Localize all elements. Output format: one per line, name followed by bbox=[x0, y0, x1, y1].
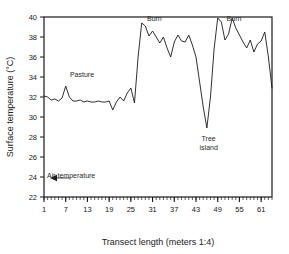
x-tick-label: 37 bbox=[170, 205, 178, 214]
annotation-air-temperature: Air temperature bbox=[47, 172, 95, 180]
x-tick-label: 7 bbox=[64, 205, 68, 214]
y-axis-ticks: 22242628303234363840 bbox=[29, 13, 44, 202]
x-tick-label: 55 bbox=[235, 205, 243, 214]
annotation-tree-island-line1: Tree bbox=[202, 135, 216, 142]
x-tick-label: 13 bbox=[83, 205, 91, 214]
y-tick-label: 28 bbox=[29, 133, 37, 142]
y-tick-label: 38 bbox=[29, 33, 37, 42]
chart-figure: 22242628303234363840 1713192531374349556… bbox=[0, 0, 289, 254]
x-tick-label: 1 bbox=[42, 205, 46, 214]
annotation-burn-right: Burn bbox=[227, 15, 242, 22]
annotation-burn-left: Burn bbox=[147, 15, 162, 22]
annotation-tree-island-line2: island bbox=[200, 144, 218, 151]
surface-temperature-line-chart: 22242628303234363840 1713192531374349556… bbox=[0, 0, 289, 254]
y-tick-label: 22 bbox=[29, 193, 37, 202]
y-tick-label: 26 bbox=[29, 153, 37, 162]
y-tick-label: 32 bbox=[29, 93, 37, 102]
y-axis-title: Surface temperature (°C) bbox=[5, 57, 15, 158]
y-tick-label: 40 bbox=[29, 13, 37, 22]
x-tick-label: 19 bbox=[105, 205, 113, 214]
x-tick-label: 61 bbox=[257, 205, 265, 214]
y-tick-label: 36 bbox=[29, 53, 37, 62]
x-tick-label: 25 bbox=[127, 205, 135, 214]
plot-frame bbox=[44, 17, 272, 197]
x-tick-label: 43 bbox=[192, 205, 200, 214]
x-axis-ticks: 17131925313743495561 bbox=[42, 197, 265, 214]
x-axis-title: Transect length (meters 1:4) bbox=[102, 237, 215, 247]
y-tick-label: 34 bbox=[29, 73, 37, 82]
x-tick-label: 49 bbox=[214, 205, 222, 214]
y-tick-label: 30 bbox=[29, 113, 37, 122]
annotation-pasture: Pasture bbox=[70, 71, 94, 78]
y-tick-label: 24 bbox=[29, 173, 37, 182]
x-tick-label: 31 bbox=[148, 205, 156, 214]
